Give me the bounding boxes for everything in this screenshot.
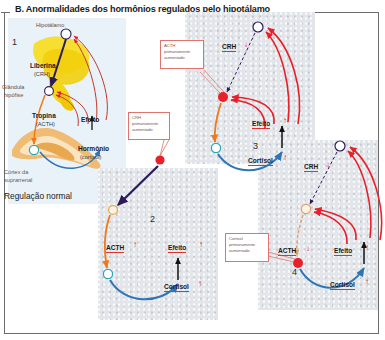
label-tropina-sub: (ACTH) — [36, 122, 55, 128]
label-tropina: Tropina — [32, 113, 56, 120]
label-efeito-p1: Efeito — [81, 117, 99, 124]
callout-p3-line3: aumentado — [164, 55, 201, 61]
label-cortisol-p2: Cortisol — [164, 284, 189, 292]
trend-cortisol-p2: ↑ — [198, 280, 202, 288]
trend-efeito-p2: ↑ — [199, 241, 203, 249]
arrow-crh-p4 — [310, 152, 337, 204]
callout-panel2: CRH primariamente aumentado — [128, 112, 170, 140]
arrow-acth-p3 — [215, 103, 221, 142]
node-hypothalamus-p3 — [253, 22, 263, 32]
label-crh-p4: CRH — [304, 164, 318, 172]
callout-panel4: Cortisol primariamente aumentado — [225, 233, 269, 262]
label-liberina-sub: (CRH) — [34, 72, 50, 78]
feedback-long-p4 — [350, 147, 382, 240]
trend-efeito-p3: ↑ — [283, 117, 287, 125]
label-crh-p3: CRH — [222, 44, 236, 52]
node-hypothalamus-p1 — [61, 29, 71, 39]
trend-crh-p4: ↓ — [326, 161, 330, 169]
node-pituitary-p3 — [218, 92, 228, 102]
node-adrenal-p2 — [103, 269, 112, 278]
callout-leader-p2 — [160, 140, 164, 156]
trend-efeito-p4: ↑ — [365, 244, 369, 252]
label-cortisol-p4: Cortisol — [330, 282, 355, 290]
label-efeito-p2: Efeito — [168, 245, 186, 253]
callout-p4-line3: aumentado — [229, 248, 266, 254]
label-hipotalamo: Hipotálamo — [36, 23, 64, 29]
trend-acth-p2: ↑ — [133, 241, 137, 249]
node-pituitary-p2 — [109, 206, 118, 215]
arrow-crh-p3 — [227, 33, 255, 92]
label-cortex: Córtex da — [4, 170, 28, 176]
callout-panel3: ACTH primariamente aumentado — [160, 40, 204, 69]
node-adrenal-p1 — [29, 145, 38, 154]
label-glandula: Glândula — [2, 85, 24, 91]
trend-cortisol-p3: ↑ — [283, 154, 287, 162]
label-efeito-p4: Efeito — [334, 248, 352, 256]
label-acth-p2: ACTH — [106, 245, 124, 253]
caption-regulacao-normal: Regulação normal — [4, 192, 72, 200]
label-hormonio-sub-p1: (cortisol) — [80, 155, 101, 161]
feedback-long-p3 — [268, 28, 300, 124]
callout-p2-line3: aumentado — [132, 127, 167, 133]
callout-leader-p3b — [204, 70, 224, 92]
label-hormonio-p1: Hormônio — [78, 146, 109, 153]
node-hypothalamus-p2 — [155, 155, 164, 164]
label-hipofise: hipófise — [4, 93, 23, 99]
panel3-number: 3 — [253, 142, 258, 151]
trend-crh-p3: ↓ — [244, 41, 248, 49]
node-adrenal-p3 — [211, 143, 220, 152]
panel4-number: 4 — [292, 268, 297, 277]
arrow-acth-p2 — [105, 215, 110, 268]
label-cortisol-p3: Cortisol — [248, 158, 273, 166]
trend-acth-p4: ↓ — [306, 245, 310, 253]
arrow-crh-p2 — [118, 166, 158, 205]
panel1-number: 1 — [12, 38, 17, 47]
node-pituitary-p1 — [45, 87, 54, 96]
callout-leader-p4 — [268, 256, 294, 262]
label-efeito-p3: Efeito — [252, 121, 270, 129]
callout-leader-p2b — [160, 138, 170, 156]
label-cortex2: suprarrenal — [4, 178, 32, 184]
arrow-acth-p4 — [297, 215, 303, 256]
trend-cortisol-p4: ↑ — [365, 278, 369, 286]
label-liberina: Liberina — [30, 63, 56, 70]
label-acth-p4: ACTH — [278, 248, 296, 256]
panel2-number: 2 — [150, 215, 155, 224]
node-pituitary-p4 — [301, 204, 310, 213]
node-hypothalamus-p4 — [335, 141, 345, 151]
callout-leader-p3 — [200, 72, 220, 93]
